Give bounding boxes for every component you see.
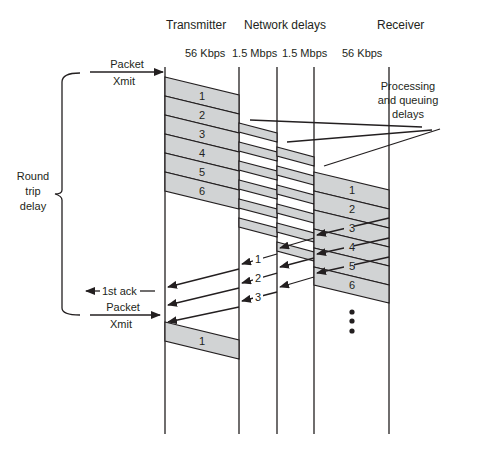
tx-packet-label: 2 — [199, 109, 205, 121]
tx-packet-label: 5 — [199, 166, 205, 178]
packet-xmit-bottom: Packet Xmit — [90, 301, 160, 330]
svg-text:Packet: Packet — [110, 58, 144, 70]
net-ack-label: 2 — [255, 272, 261, 284]
tx-packet-label: 1 — [199, 90, 205, 102]
svg-text:Processing: Processing — [381, 80, 435, 92]
tx-packet-label: 4 — [199, 147, 205, 159]
header-network-delays: Network delays — [244, 18, 326, 32]
continuation-dots — [349, 309, 354, 333]
header-transmitter: Transmitter — [166, 18, 226, 32]
svg-text:Packet: Packet — [106, 301, 140, 313]
svg-text:Xmit: Xmit — [110, 318, 132, 330]
rx-ack-label: 3 — [349, 222, 355, 234]
tx-packet-label: 6 — [199, 185, 205, 197]
svg-text:trip: trip — [25, 185, 40, 197]
rx-packet-label: 2 — [349, 203, 355, 215]
net-ack-label: 1 — [255, 253, 261, 265]
svg-text:delay: delay — [20, 200, 47, 212]
speed-label-net1: 1.5 Mbps — [232, 47, 278, 59]
svg-text:delays: delays — [392, 108, 424, 120]
tx-packet-label: 3 — [199, 128, 205, 140]
svg-text:Xmit: Xmit — [113, 75, 135, 87]
svg-text:1st ack: 1st ack — [102, 285, 137, 297]
speed-label-rx: 56 Kbps — [342, 47, 383, 59]
network-segment-1-slices — [239, 123, 277, 237]
receiver-packets: 1 2 5 6 — [314, 172, 389, 303]
rx-packet-label: 1 — [349, 184, 355, 196]
retransmit-packet-label: 1 — [199, 335, 205, 347]
first-ack-label: 1st ack — [86, 285, 155, 297]
speed-label-net2: 1.5 Mbps — [282, 47, 328, 59]
header-receiver: Receiver — [377, 18, 424, 32]
rx-ack-label: 4 — [349, 241, 355, 253]
retransmit-packet: 1 — [165, 322, 239, 359]
svg-text:and queuing: and queuing — [378, 94, 439, 106]
svg-text:Round: Round — [17, 170, 49, 182]
transmitter-packets: 1 2 3 4 5 6 — [165, 77, 239, 209]
speed-label-tx: 56 Kbps — [185, 47, 226, 59]
network-timing-diagram: Transmitter Network delays Receiver 56 K… — [0, 0, 483, 449]
packet-xmit-top: Packet Xmit — [90, 58, 163, 87]
net-ack-label: 3 — [255, 291, 261, 303]
round-trip-bracket: Round trip delay — [17, 73, 80, 315]
rx-packet-label: 6 — [349, 279, 355, 291]
rx-ack-label: 5 — [349, 260, 355, 272]
